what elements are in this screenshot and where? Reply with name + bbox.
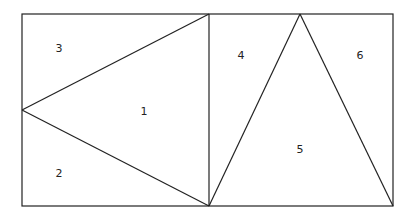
region-label-3: 3 — [56, 42, 63, 55]
region-label-2: 2 — [56, 167, 63, 180]
right-left-diagonal — [209, 14, 300, 206]
left-upper-diagonal — [22, 14, 209, 110]
outer-rectangle — [22, 14, 393, 206]
region-diagram: 1 2 3 4 5 6 — [0, 0, 416, 222]
region-label-5: 5 — [297, 143, 304, 156]
right-right-diagonal — [300, 14, 393, 206]
region-label-4: 4 — [238, 49, 245, 62]
region-label-6: 6 — [357, 49, 364, 62]
region-label-1: 1 — [141, 105, 148, 118]
left-lower-diagonal — [22, 110, 209, 206]
